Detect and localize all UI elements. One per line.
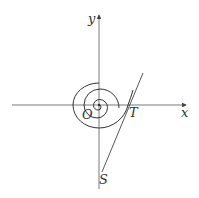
tangent-line	[102, 73, 143, 172]
y-axis-label: y	[88, 12, 95, 25]
origin-label: O	[82, 108, 93, 121]
diagram-canvas	[0, 0, 199, 198]
point-t-label: T	[129, 106, 138, 119]
x-axis-label: x	[181, 106, 188, 119]
origin-point	[98, 104, 100, 106]
spiral-diagram: y x O T S	[0, 0, 199, 198]
point-s-label: S	[99, 173, 108, 186]
